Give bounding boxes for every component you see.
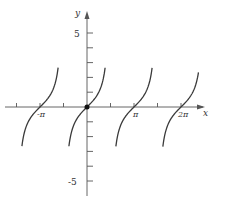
y-tick-label-5: 5 [74,29,80,39]
y-axis-arrow-icon [85,11,90,19]
x-tick-label-2pi: 2π [177,110,189,119]
x-axis-label: x [203,108,208,118]
x-tick-label-neg-pi: -π [37,110,46,119]
y-axis-label: y [74,8,81,18]
x-tick-label-pi: π [132,110,139,119]
y-tick-label-neg5: -5 [68,177,77,187]
axes [5,11,205,196]
origin-point [85,105,90,110]
tangent-chart: y x -π π 2π 5 -5 [0,0,241,198]
